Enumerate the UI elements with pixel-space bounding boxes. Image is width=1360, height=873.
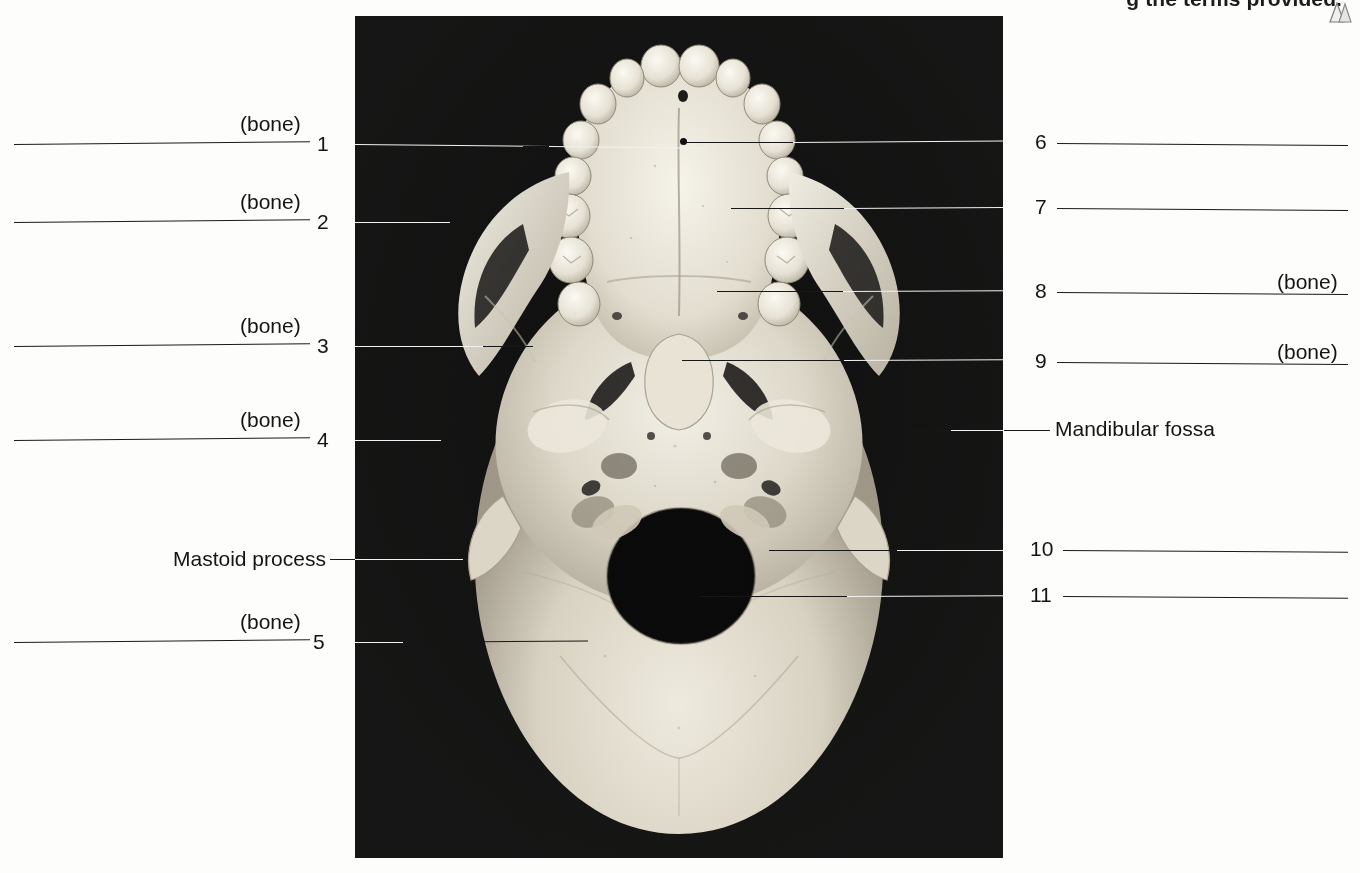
skull-illustration <box>355 16 1003 858</box>
instruction-text: g the terms provided. <box>1126 0 1342 11</box>
leader-segment-3-bone <box>483 346 533 347</box>
bone-suffix-2: (bone) <box>240 191 301 212</box>
incisive-foramen-dot <box>680 138 687 145</box>
bone-suffix-5: (bone) <box>240 611 301 632</box>
bone-suffix-4: (bone) <box>240 409 301 430</box>
leader-segment-7-bone <box>731 208 846 209</box>
label-mastoid-process: Mastoid process <box>173 548 326 569</box>
leader-segment-5-in <box>355 642 405 643</box>
leader-line-2 <box>14 219 310 223</box>
label-number-8: 8 <box>1035 280 1047 301</box>
leader-segment-10-in <box>897 550 1003 551</box>
leader-line-10 <box>1063 550 1348 553</box>
leader-segment-mastoid-in <box>355 559 463 560</box>
label-number-10: 10 <box>1030 538 1053 559</box>
leader-segment-1-bone <box>523 146 549 147</box>
bone-suffix-1: (bone) <box>240 113 301 134</box>
label-number-11: 11 <box>1030 584 1052 605</box>
leader-segment-3-in <box>355 346 485 347</box>
bone-suffix-3: (bone) <box>240 315 301 336</box>
leader-segment-4-in <box>355 440 441 441</box>
leader-line-6 <box>1057 143 1348 146</box>
figure-page: g the terms provided. <box>0 0 1360 873</box>
label-number-1: 1 <box>317 133 329 154</box>
leader-line-11 <box>1063 596 1348 599</box>
leader-segment-8-bone <box>717 291 845 292</box>
leader-segment-6-bone <box>685 142 795 143</box>
leader-line-mastoid-process <box>330 559 358 560</box>
leader-line-3 <box>14 343 310 347</box>
label-number-5: 5 <box>313 631 325 652</box>
leader-line-7 <box>1057 208 1348 211</box>
leader-segment-9-bone <box>682 360 846 361</box>
bone-suffix-9: (bone) <box>1277 341 1338 362</box>
leader-segment-2-in <box>355 222 450 223</box>
triangle-bookmark-icon <box>1326 1 1352 23</box>
leader-segment-10-bone <box>769 550 901 551</box>
leader-segment-11-bone <box>700 596 850 597</box>
leader-line-4 <box>14 437 310 441</box>
leader-segment-mandibular-fossa-bone <box>907 430 957 431</box>
skull-photograph <box>355 16 1003 858</box>
label-number-6: 6 <box>1035 131 1047 152</box>
label-number-2: 2 <box>317 211 329 232</box>
label-number-7: 7 <box>1035 196 1047 217</box>
label-number-4: 4 <box>317 429 329 450</box>
leader-line-1 <box>14 141 310 145</box>
label-mandibular-fossa: Mandibular fossa <box>1055 418 1215 439</box>
leader-line-5 <box>14 639 310 643</box>
leader-segment-mandibular-fossa-in <box>951 430 1003 431</box>
label-number-9: 9 <box>1035 350 1047 371</box>
label-number-3: 3 <box>317 335 329 356</box>
bone-suffix-8: (bone) <box>1277 271 1338 292</box>
leader-line-mandibular-fossa <box>1004 430 1050 431</box>
